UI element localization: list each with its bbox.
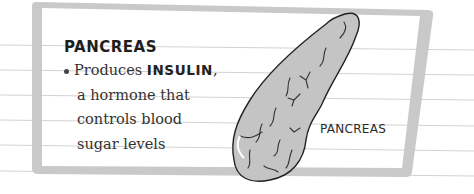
bullet-line: controls blood xyxy=(64,107,218,132)
keyword-insulin: INSULIN xyxy=(147,62,213,78)
bullet-icon xyxy=(64,69,69,74)
pancreas-label: PANCREAS xyxy=(320,122,386,136)
pancreas-notes: PANCREAS Produces INSULIN, a hormone tha… xyxy=(64,38,218,156)
bullet-suffix: , xyxy=(213,62,218,78)
bullet-line: a hormone that xyxy=(64,83,218,108)
section-heading: PANCREAS xyxy=(64,38,218,56)
bullet-prefix: Produces xyxy=(74,62,147,78)
bullet-item: Produces INSULIN, a hormone that control… xyxy=(64,58,218,156)
bullet-line: sugar levels xyxy=(64,132,218,157)
